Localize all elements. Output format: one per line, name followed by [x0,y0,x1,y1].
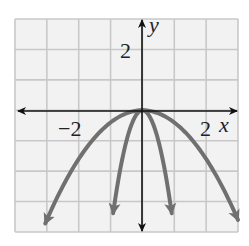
x-axis-label: x [219,114,229,136]
graph-canvas [0,0,249,246]
y-tick-label-2: 2 [120,40,131,62]
y-axis-label: y [149,14,159,36]
x-tick-label-neg2: −2 [58,118,81,140]
x-tick-label-2: 2 [200,118,211,140]
